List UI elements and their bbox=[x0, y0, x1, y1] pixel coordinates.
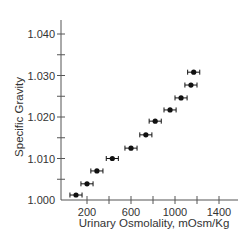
marker-dot bbox=[167, 107, 172, 112]
x-axis-title: Urinary Osmolality, mOsm/Kg bbox=[79, 217, 230, 229]
marker-dot bbox=[73, 192, 78, 197]
y-tick-labels: 1.0001.0101.0201.0301.040 bbox=[27, 28, 55, 206]
y-tick-label: 1.040 bbox=[27, 28, 55, 40]
y-tick-label: 1.030 bbox=[27, 70, 55, 82]
marker-dot bbox=[110, 156, 115, 161]
marker-dot bbox=[84, 181, 89, 186]
data-point bbox=[106, 156, 118, 161]
marker-dot bbox=[153, 119, 158, 124]
scatter-chart: 20060010001400 1.0001.0101.0201.0301.040… bbox=[0, 0, 250, 239]
data-point bbox=[164, 107, 176, 112]
marker-dot bbox=[94, 168, 99, 173]
data-points bbox=[70, 70, 200, 198]
y-tick-label: 1.000 bbox=[27, 194, 55, 206]
data-point bbox=[140, 132, 152, 137]
data-point bbox=[81, 181, 93, 186]
marker-dot bbox=[188, 82, 193, 87]
data-point bbox=[188, 70, 200, 75]
marker-dot bbox=[128, 146, 133, 151]
y-axis-title: Specific Gravity bbox=[13, 77, 25, 157]
data-point bbox=[175, 95, 187, 100]
marker-dot bbox=[178, 95, 183, 100]
data-point bbox=[125, 146, 137, 151]
y-tick-label: 1.020 bbox=[27, 111, 55, 123]
data-point bbox=[91, 168, 103, 173]
marker-dot bbox=[191, 70, 196, 75]
axes: 20060010001400 1.0001.0101.0201.0301.040 bbox=[27, 20, 238, 218]
marker-dot bbox=[143, 132, 148, 137]
data-point bbox=[149, 119, 161, 124]
data-point bbox=[70, 192, 82, 197]
y-tick-label: 1.010 bbox=[27, 153, 55, 165]
data-point bbox=[185, 82, 197, 87]
